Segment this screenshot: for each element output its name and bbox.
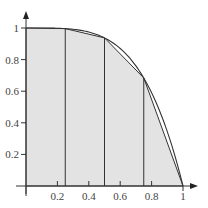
x-tick-label: 0.2	[51, 190, 65, 202]
x-tick-label: 0.6	[113, 190, 127, 202]
y-tick-label: 0.4	[5, 117, 19, 129]
y-tick-label: 0.6	[5, 85, 19, 97]
x-tick-label: 0.4	[82, 190, 96, 202]
y-tick-label: 1	[14, 22, 20, 34]
y-axis-arrow-icon	[23, 11, 29, 19]
y-tick-label: 0.8	[5, 54, 19, 66]
x-tick-label: 0.8	[145, 190, 159, 202]
x-tick-label: 1	[180, 190, 186, 202]
trapezoid-rule-chart: 0.20.40.60.81 0.20.40.60.81	[0, 0, 208, 208]
x-axis-arrow-icon	[190, 183, 198, 189]
y-tick-label: 0.2	[5, 148, 19, 160]
y-ticks: 0.20.40.60.81	[5, 22, 26, 160]
